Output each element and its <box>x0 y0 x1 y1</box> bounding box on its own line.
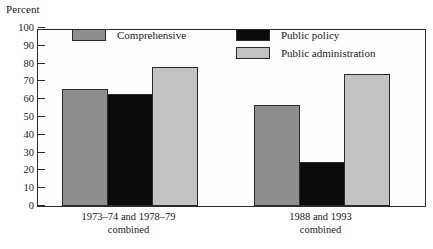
y-axis-tick-label: 10 <box>24 180 35 196</box>
y-axis-tick-mark <box>38 134 45 135</box>
x-axis-label-line1: 1973–74 and 1978–79 <box>82 211 176 222</box>
x-axis-label-line1: 1988 and 1993 <box>289 211 351 222</box>
bar-public-policy-group-1 <box>107 94 153 206</box>
y-axis-tick-label: 90 <box>24 38 35 54</box>
y-axis-tick-label: 100 <box>18 20 34 36</box>
bar-public-policy-group-2 <box>299 162 345 207</box>
bar-comprehensive-group-1 <box>62 89 108 206</box>
y-axis-title: Percent <box>6 3 40 15</box>
y-axis-tick-label: 70 <box>24 73 35 89</box>
y-axis-tick-label: 30 <box>24 145 35 161</box>
legend-swatch-icon-comprehensive <box>72 29 106 41</box>
y-axis-tick-label: 60 <box>24 91 35 107</box>
legend-swatch-icon-public-policy <box>236 29 270 41</box>
legend-item-public-policy[interactable]: Public policy <box>236 29 339 41</box>
x-axis-label-line2: combined <box>231 223 411 236</box>
bar-public-admin-group-2 <box>344 74 390 206</box>
y-axis-tick-mark <box>38 27 45 28</box>
y-axis-tick-mark <box>38 187 45 188</box>
y-axis-tick-mark <box>38 152 45 153</box>
y-axis-tick-mark <box>38 98 45 99</box>
legend-label-public-administration: Public administration <box>281 47 375 59</box>
y-axis-tick-label: 80 <box>24 56 35 72</box>
y-axis-tick-label: 0 <box>29 198 34 214</box>
y-axis-tick-mark <box>38 63 45 64</box>
y-axis-tick-label: 20 <box>24 162 35 178</box>
legend-item-comprehensive[interactable]: Comprehensive <box>72 29 186 41</box>
y-axis-tick-mark <box>38 80 45 81</box>
x-axis-label-line2: combined <box>39 223 219 236</box>
legend-swatch-icon-public-administration <box>236 47 270 59</box>
y-axis-tick-label: 50 <box>24 109 35 125</box>
y-axis-tick-mark <box>38 169 45 170</box>
y-axis-tick-mark <box>38 116 45 117</box>
y-axis-tick-mark <box>38 45 45 46</box>
x-axis-label-group-2: 1988 and 1993combined <box>231 210 411 236</box>
legend-label-comprehensive: Comprehensive <box>117 29 186 41</box>
y-axis-tick-label: 40 <box>24 127 35 143</box>
bar-chart: Percent 0102030405060708090100 1973–74 a… <box>0 0 433 249</box>
y-axis-tick-mark <box>38 205 45 206</box>
x-axis-label-group-1: 1973–74 and 1978–79combined <box>39 210 219 236</box>
bar-public-admin-group-1 <box>152 67 198 206</box>
bar-comprehensive-group-2 <box>254 105 300 206</box>
legend-item-public-administration[interactable]: Public administration <box>236 47 375 59</box>
legend-label-public-policy: Public policy <box>281 29 339 41</box>
